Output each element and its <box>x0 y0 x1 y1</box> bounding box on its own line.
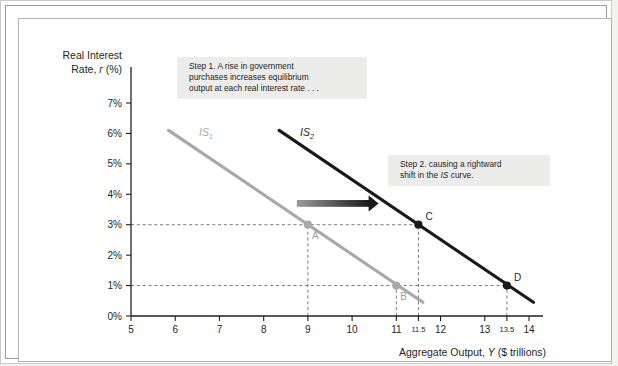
point-marker-C <box>414 221 422 229</box>
x-axis-ticks: 56789101112131411.513.5 <box>128 316 535 335</box>
y-axis-ticks: 0%1%2%3%4%5%6%7% <box>108 98 131 322</box>
arrow-shaft <box>297 200 370 207</box>
y-tick-label: 1% <box>108 280 123 291</box>
step-2-callout: Step 2. causing a rightwardshift in the … <box>388 155 550 186</box>
point-marker-D <box>503 281 511 289</box>
x-tick-label: 14 <box>523 324 535 335</box>
x-tick-label: 13 <box>479 324 491 335</box>
x-tick-label: 11 <box>391 324 402 335</box>
step-2-callout-line: shift in the IS curve. <box>400 170 474 180</box>
x-tick-label: 9 <box>305 324 311 335</box>
y-tick-label: 7% <box>108 98 123 109</box>
x-minor-tick-label: 13.5 <box>500 325 515 334</box>
x-tick-label: 12 <box>435 324 447 335</box>
x-tick-label: 10 <box>347 324 359 335</box>
figure-container: 56789101112131411.513.5 0%1%2%3%4%5%6%7%… <box>0 0 618 366</box>
x-tick-label: 7 <box>217 324 223 335</box>
point-marker-A <box>304 221 312 229</box>
y-tick-label: 3% <box>108 219 123 230</box>
x-tick-label: 5 <box>128 324 134 335</box>
y-tick-label: 6% <box>108 128 123 139</box>
y-axis-title-line1: Real Interest <box>62 49 122 61</box>
y-tick-label: 0% <box>108 311 123 322</box>
y-tick-label: 4% <box>108 189 123 200</box>
x-axis-title: Aggregate Output, Y ($ trillions) <box>399 346 546 358</box>
point-marker-B <box>392 281 400 289</box>
x-tick-label: 6 <box>172 324 178 335</box>
axes-layer <box>131 67 543 316</box>
y-tick-label: 2% <box>108 250 123 261</box>
point-label-A: A <box>312 230 319 241</box>
figure-outer-frame: 56789101112131411.513.5 0%1%2%3%4%5%6%7%… <box>5 5 607 359</box>
step-1-callout-line: purchases increases equilibrium <box>189 72 309 82</box>
point-label-B: B <box>400 291 407 302</box>
point-label-C: C <box>425 211 432 222</box>
y-axis-title-line2: Rate, r (%) <box>71 63 122 75</box>
curve-label-IS2: IS2 <box>300 126 314 140</box>
x-minor-tick-label: 11.5 <box>411 325 425 334</box>
curve-labels-layer: IS1IS2 <box>199 126 314 140</box>
is-curve-chart: 56789101112131411.513.5 0%1%2%3%4%5%6%7%… <box>19 19 609 359</box>
step-1-callout-line: Step 1. A rise in government <box>189 61 294 71</box>
y-tick-label: 5% <box>108 158 123 169</box>
rightward-shift-arrow <box>297 195 379 211</box>
figure-inner-frame: 56789101112131411.513.5 0%1%2%3%4%5%6%7%… <box>18 18 612 362</box>
point-label-D: D <box>514 272 521 283</box>
curve-label-IS1: IS1 <box>199 126 213 140</box>
step-1-callout-line: output at each real interest rate . . . <box>189 83 319 93</box>
curve-IS1 <box>169 130 423 302</box>
x-tick-label: 8 <box>261 324 267 335</box>
step-2-callout-line: Step 2. causing a rightward <box>400 159 502 169</box>
guide-lines-layer <box>131 225 507 316</box>
step-1-callout: Step 1. A rise in governmentpurchases in… <box>177 57 367 99</box>
step-callouts-layer: Step 1. A rise in governmentpurchases in… <box>177 57 550 186</box>
